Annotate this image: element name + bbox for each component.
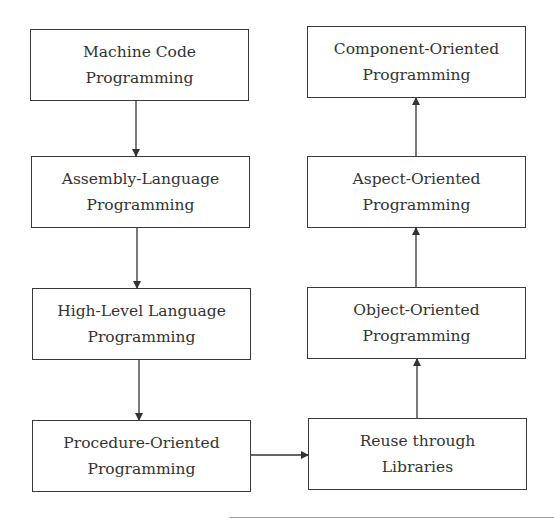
node-label-line2: Programming: [362, 62, 470, 88]
node-label-line2: Programming: [85, 65, 193, 91]
node-label-line2: Programming: [87, 324, 195, 350]
node-label-line2: Libraries: [382, 454, 453, 480]
node-label-line1: Machine Code: [83, 39, 196, 65]
node-aspect-oriented: Aspect-Oriented Programming: [307, 156, 526, 228]
node-label-line2: Programming: [87, 456, 195, 482]
node-label-line2: Programming: [362, 192, 470, 218]
node-label-line1: Assembly-Language: [62, 166, 220, 192]
node-machine-code: Machine Code Programming: [30, 29, 249, 101]
node-label-line1: High-Level Language: [57, 298, 226, 324]
node-assembly-language: Assembly-Language Programming: [31, 156, 250, 228]
node-reuse-through-libraries: Reuse through Libraries: [308, 418, 527, 490]
node-label-line2: Programming: [86, 192, 194, 218]
node-component-oriented: Component-Oriented Programming: [307, 26, 526, 98]
node-object-oriented: Object-Oriented Programming: [307, 287, 526, 359]
node-label-line1: Aspect-Oriented: [353, 166, 481, 192]
node-label-line1: Component-Oriented: [334, 36, 499, 62]
node-label-line2: Programming: [362, 323, 470, 349]
node-label-line1: Object-Oriented: [353, 297, 479, 323]
node-high-level-language: High-Level Language Programming: [32, 288, 251, 360]
node-procedure-oriented: Procedure-Oriented Programming: [32, 420, 251, 492]
node-label-line1: Reuse through: [360, 428, 476, 454]
node-label-line1: Procedure-Oriented: [63, 430, 219, 456]
